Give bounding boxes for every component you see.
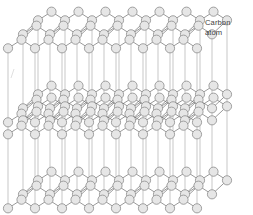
carbon-atom-label-line1: Carbon (205, 18, 253, 28)
carbon-atom (152, 121, 161, 130)
carbon-atom (194, 21, 203, 30)
carbon-atom (86, 107, 95, 116)
carbon-atom (30, 130, 39, 139)
carbon-atom (59, 107, 68, 116)
carbon-atom (57, 118, 66, 127)
carbon-atom (44, 35, 53, 44)
carbon-atom (182, 167, 191, 176)
carbon-atom (155, 93, 164, 102)
carbon-atom (59, 21, 68, 30)
carbon-atom (84, 118, 93, 127)
carbon-atom (179, 121, 188, 130)
carbon-atom (57, 204, 66, 213)
carbon-atom (101, 81, 110, 90)
carbon-atom (57, 130, 66, 139)
carbon-atom (155, 167, 164, 176)
carbon-atom (209, 167, 218, 176)
carbon-atom (179, 35, 188, 44)
carbon-atom (140, 181, 149, 190)
carbon-atom (111, 118, 120, 127)
carbon-atom (101, 93, 110, 102)
carbon-atom (86, 21, 95, 30)
carbon-atom (57, 44, 66, 53)
carbon-atom (209, 7, 218, 16)
carbon-atom (152, 35, 161, 44)
carbon-atom (86, 181, 95, 190)
carbon-atom (128, 7, 137, 16)
carbon-atom (138, 44, 147, 53)
carbon-atom (98, 195, 107, 204)
carbon-atom (32, 107, 41, 116)
carbon-atom (98, 121, 107, 130)
carbon-atom (192, 204, 201, 213)
carbon-atom (207, 104, 216, 113)
carbon-atom (125, 121, 134, 130)
carbon-atom (47, 7, 56, 16)
carbon-atom (17, 121, 26, 130)
carbon-atom (194, 107, 203, 116)
carbon-atom (30, 44, 39, 53)
carbon-atom (209, 93, 218, 102)
carbon-atom (113, 21, 122, 30)
scan-artifact-mark (11, 69, 14, 78)
carbon-atom (192, 44, 201, 53)
carbon-atom (30, 204, 39, 213)
carbon-atom (71, 121, 80, 130)
carbon-atom (194, 181, 203, 190)
carbon-atom (47, 93, 56, 102)
carbon-atom (167, 21, 176, 30)
carbon-atom (111, 130, 120, 139)
graphite-structure-figure: Carbon atom (0, 0, 253, 215)
carbon-atom (128, 81, 137, 90)
carbon-atom (165, 118, 174, 127)
carbon-atom (74, 93, 83, 102)
carbon-atom (209, 81, 218, 90)
carbon-atom (138, 130, 147, 139)
carbon-atom (155, 7, 164, 16)
carbon-atom (101, 7, 110, 16)
carbon-atom (192, 130, 201, 139)
carbon-atom (3, 130, 12, 139)
carbon-atom (155, 81, 164, 90)
carbon-atom (140, 21, 149, 30)
carbon-atom (17, 195, 26, 204)
carbon-atom (165, 44, 174, 53)
carbon-atom (222, 102, 231, 111)
carbon-atom (222, 176, 231, 185)
carbon-atom (152, 195, 161, 204)
carbon-atom (167, 107, 176, 116)
carbon-atom (44, 121, 53, 130)
carbon-atoms-group (3, 7, 231, 213)
carbon-atom (182, 93, 191, 102)
carbon-atom (71, 195, 80, 204)
carbon-atom (84, 130, 93, 139)
carbon-atom (111, 204, 120, 213)
carbon-atom (138, 204, 147, 213)
carbon-atom (47, 167, 56, 176)
carbon-atom (84, 204, 93, 213)
carbon-atom (74, 7, 83, 16)
carbon-atom (128, 93, 137, 102)
carbon-atom (165, 204, 174, 213)
carbon-atom (3, 44, 12, 53)
carbon-atom (138, 118, 147, 127)
carbon-atom-label-line2: atom (205, 28, 253, 38)
carbon-atom (44, 195, 53, 204)
carbon-atom (113, 107, 122, 116)
carbon-atom (222, 90, 231, 99)
carbon-atom (192, 118, 201, 127)
carbon-atom (182, 7, 191, 16)
carbon-atom (74, 81, 83, 90)
carbon-atom-label: Carbon atom (205, 18, 253, 38)
carbon-atom (125, 35, 134, 44)
carbon-atom (111, 44, 120, 53)
carbon-atom (207, 116, 216, 125)
carbon-atom (167, 181, 176, 190)
carbon-atom (125, 195, 134, 204)
carbon-atom (84, 44, 93, 53)
carbon-atom (32, 181, 41, 190)
carbon-atom (113, 181, 122, 190)
carbon-atom (74, 167, 83, 176)
carbon-atom (17, 35, 26, 44)
carbon-atom (71, 35, 80, 44)
